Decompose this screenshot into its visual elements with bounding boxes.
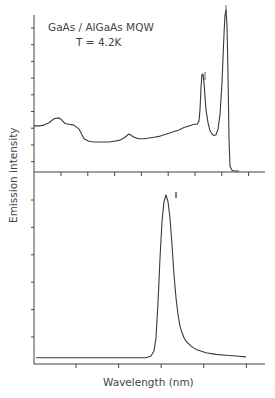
bottom-panel-x-ticks bbox=[76, 364, 246, 368]
emission-spectra-chart bbox=[0, 0, 275, 398]
temperature-annotation: T = 4.2K bbox=[76, 36, 121, 48]
top-panel-x-ticks bbox=[61, 172, 249, 176]
bottom-spectrum-curve bbox=[36, 195, 246, 358]
y-axis-label: Emission intensity bbox=[7, 133, 19, 223]
bottom-panel bbox=[31, 172, 265, 368]
x-axis-label: Wavelength (nm) bbox=[103, 376, 194, 388]
sample-annotation: GaAs / AlGaAs MQW bbox=[48, 21, 154, 33]
top-spectrum-curve bbox=[34, 10, 239, 171]
